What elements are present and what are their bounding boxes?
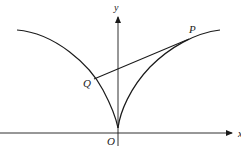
chord-pq	[94, 39, 189, 79]
origin-label: O	[107, 135, 115, 147]
curve-right-branch	[118, 30, 220, 128]
y-axis-label: y	[113, 2, 119, 13]
x-axis-label: x	[237, 128, 241, 139]
cusp-curve-diagram: x y O P Q	[0, 0, 241, 150]
curve-left-branch	[17, 30, 118, 128]
point-q-label: Q	[83, 77, 91, 89]
point-p-label: P	[188, 23, 196, 35]
